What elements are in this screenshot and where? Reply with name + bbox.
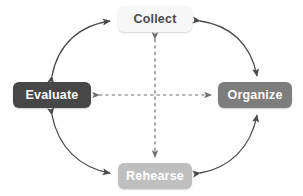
node-collect-label: Collect	[133, 12, 176, 26]
connector-rehearse-organize	[200, 115, 257, 173]
connector-collect-evaluate	[52, 21, 110, 76]
node-evaluate[interactable]: Evaluate	[13, 82, 91, 108]
node-organize[interactable]: Organize	[218, 82, 292, 108]
cycle-diagram: Collect Organize Rehearse Evaluate	[0, 0, 303, 196]
connector-evaluate-rehearse	[52, 115, 110, 173]
node-rehearse[interactable]: Rehearse	[118, 163, 192, 189]
node-organize-label: Organize	[227, 88, 282, 102]
node-rehearse-label: Rehearse	[126, 169, 184, 183]
connector-collect-organize	[200, 21, 257, 76]
node-collect[interactable]: Collect	[118, 6, 192, 32]
node-evaluate-label: Evaluate	[25, 88, 78, 102]
